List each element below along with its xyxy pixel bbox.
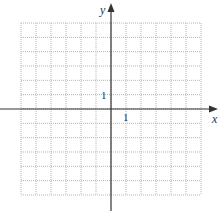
x-tick-label: 1 — [123, 111, 129, 123]
x-axis-label: x — [211, 112, 218, 126]
y-axis-label: y — [99, 3, 106, 17]
y-tick-label: 1 — [101, 89, 107, 101]
coordinate-plane: x y 1 1 — [0, 0, 222, 211]
y-axis-arrow-icon — [108, 3, 115, 12]
